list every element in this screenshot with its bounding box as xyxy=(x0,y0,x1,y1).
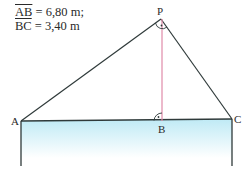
segment-pc xyxy=(161,19,232,119)
label-p: P xyxy=(157,5,163,17)
geometry-figure: P A B C xyxy=(0,0,246,174)
segment-ap xyxy=(21,19,161,121)
right-angle-b-dot xyxy=(158,116,160,118)
label-b: B xyxy=(158,123,165,135)
label-c: C xyxy=(234,113,241,125)
water-fill xyxy=(21,119,232,158)
right-angle-p-dot xyxy=(161,25,163,27)
diagram: AB = 6,80 m; BC = 3,40 m xyxy=(0,0,246,174)
label-a: A xyxy=(11,115,19,127)
